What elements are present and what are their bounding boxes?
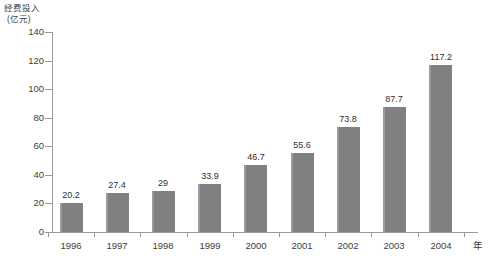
x-axis-tick xyxy=(325,233,326,237)
bar-value-label: 73.8 xyxy=(328,114,368,124)
x-axis-tick-label: 2002 xyxy=(325,240,371,251)
x-axis-tick-label: 1996 xyxy=(48,240,94,251)
y-axis-tick-label: 20 xyxy=(33,198,44,208)
y-axis-unit-text: (亿元) xyxy=(4,14,40,25)
bar xyxy=(60,203,83,232)
x-axis-line xyxy=(52,232,478,233)
bar xyxy=(383,107,406,232)
x-axis-tick-label: 1999 xyxy=(187,240,233,251)
bar xyxy=(106,193,129,232)
bar-value-label: 20.2 xyxy=(51,190,91,200)
x-axis-tick xyxy=(233,233,234,237)
y-axis-line xyxy=(52,32,53,233)
bar-value-label: 27.4 xyxy=(97,180,137,190)
x-axis-tick xyxy=(94,233,95,237)
y-axis-tick xyxy=(45,146,52,147)
x-axis-tick xyxy=(371,233,372,237)
x-axis-tick-label: 1998 xyxy=(140,240,186,251)
y-axis-tick-label: 100 xyxy=(28,84,44,94)
y-axis-tick xyxy=(45,89,52,90)
y-axis-tick xyxy=(45,175,52,176)
y-axis-tick xyxy=(45,118,52,119)
y-axis-title-text: 经费投入 xyxy=(4,3,40,13)
bar xyxy=(198,184,221,232)
x-axis-label: 年 xyxy=(473,240,483,251)
x-axis-tick xyxy=(418,233,419,237)
y-axis-tick-label: 80 xyxy=(33,113,44,123)
y-axis-tick-label: 60 xyxy=(33,141,44,151)
bar xyxy=(244,165,267,232)
bar xyxy=(337,127,360,232)
x-axis-tick-label: 1997 xyxy=(94,240,140,251)
x-axis-tick xyxy=(279,233,280,237)
y-axis-tick xyxy=(45,32,52,33)
bar xyxy=(291,153,314,232)
y-axis-title: 经费投入 (亿元) xyxy=(4,3,40,25)
bar xyxy=(429,65,452,232)
bar-value-label: 87.7 xyxy=(374,94,414,104)
y-axis-tick-label: 120 xyxy=(28,56,44,66)
bar-chart: 经费投入 (亿元) 020406080100120140 20.227.4293… xyxy=(0,0,493,263)
y-axis-tick xyxy=(45,61,52,62)
x-axis-tick xyxy=(48,233,49,237)
x-axis-tick xyxy=(187,233,188,237)
y-axis-tick-label: 0 xyxy=(39,227,44,237)
bar-value-label: 117.2 xyxy=(421,52,461,62)
x-axis-tick xyxy=(140,233,141,237)
y-axis-tick-label: 140 xyxy=(28,27,44,37)
bar xyxy=(152,191,175,232)
bar-value-label: 55.6 xyxy=(282,140,322,150)
x-axis-tick-label: 2004 xyxy=(418,240,464,251)
y-axis-tick-label: 40 xyxy=(33,170,44,180)
bar-value-label: 33.9 xyxy=(190,171,230,181)
x-axis-tick-label: 2001 xyxy=(279,240,325,251)
x-axis-tick-label: 2000 xyxy=(233,240,279,251)
bar-value-label: 29 xyxy=(143,178,183,188)
bar-value-label: 46.7 xyxy=(236,152,276,162)
x-axis-tick xyxy=(464,233,465,237)
y-axis-tick xyxy=(45,203,52,204)
x-axis-tick-label: 2003 xyxy=(371,240,417,251)
